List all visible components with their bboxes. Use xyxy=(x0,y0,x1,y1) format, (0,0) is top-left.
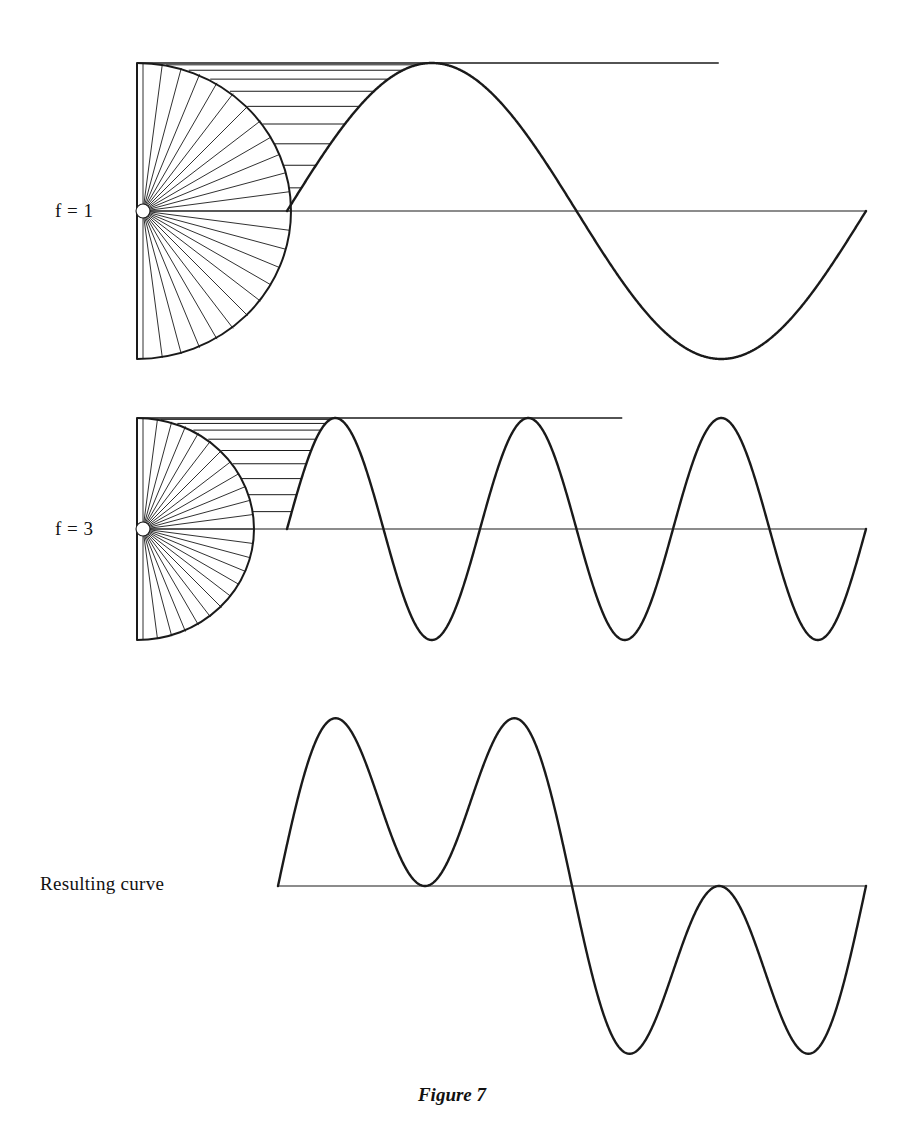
phasor-spoke xyxy=(143,529,172,636)
phasor-spoke xyxy=(143,433,199,529)
panel-2 xyxy=(136,418,866,640)
phasor-spoke xyxy=(143,529,239,585)
panel-label-f3: f = 3 xyxy=(55,518,94,540)
figure-drawing xyxy=(0,0,904,1140)
phasor-spoke xyxy=(143,211,280,268)
phasor-spoke xyxy=(143,474,239,530)
phasor-spoke xyxy=(143,173,286,211)
panel-label-f1: f = 1 xyxy=(55,200,94,222)
phasor-hub xyxy=(136,522,150,536)
phasor-spoke xyxy=(143,211,271,285)
panel-1 xyxy=(136,63,866,359)
phasor-spoke xyxy=(143,137,271,211)
phasor-spoke xyxy=(143,68,181,211)
phasor-spoke xyxy=(143,83,217,211)
phasor-spoke xyxy=(143,529,250,558)
figure-container: f = 1 f = 3 Resulting curve Figure 7 xyxy=(0,0,904,1140)
phasor-spoke xyxy=(143,451,221,529)
phasor-spoke xyxy=(143,500,250,529)
phasor-hub xyxy=(136,204,150,218)
figure-caption: Figure 7 xyxy=(0,1084,904,1106)
phasor-spoke xyxy=(143,211,181,354)
panel-label-resulting-curve: Resulting curve xyxy=(40,873,164,895)
phasor-spoke xyxy=(143,74,200,211)
phasor-spoke xyxy=(143,211,248,316)
phasor-spoke xyxy=(143,529,221,607)
phasor-spoke xyxy=(143,211,200,348)
phasor-spoke xyxy=(143,529,199,625)
phasor-spoke xyxy=(143,154,280,211)
phasor-spoke xyxy=(143,106,248,211)
phasor-spoke xyxy=(143,422,172,529)
phasor-spoke xyxy=(143,211,286,249)
phasor-spoke xyxy=(143,211,217,339)
panel-3 xyxy=(278,718,866,1054)
